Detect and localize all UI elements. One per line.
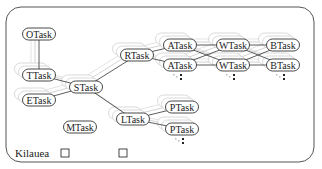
task-node-ptask1[interactable]: PTask	[166, 101, 199, 113]
task-node-mtask[interactable]: MTask	[64, 121, 97, 133]
task-node-label: PTask	[170, 124, 194, 135]
more-tasks-ellipsis-icon	[276, 74, 285, 80]
more-tasks-ellipsis-icon	[173, 74, 182, 80]
ghost-shadow-layer	[15, 28, 296, 132]
more-tasks-ellipsis-icon	[175, 138, 184, 144]
task-node-ttask[interactable]: TTask	[23, 69, 56, 81]
task-node-rtask[interactable]: RTask	[121, 49, 154, 61]
task-node-label: OTask	[26, 29, 52, 40]
task-node-btask1[interactable]: BTask	[267, 39, 300, 51]
task-node-label: WTask	[219, 60, 247, 71]
task-node-ltask[interactable]: LTask	[117, 113, 150, 125]
processor-slot-icon	[119, 149, 127, 157]
task-node-label: BTask	[270, 40, 295, 51]
task-node-label: PTask	[170, 102, 194, 113]
task-node-stask[interactable]: STask	[70, 81, 103, 93]
more-tasks-ellipsis-icon	[226, 74, 235, 80]
task-node-label: WTask	[219, 40, 247, 51]
task-node-btask2[interactable]: BTask	[267, 59, 300, 71]
task-node-label: LTask	[121, 114, 145, 125]
task-node-label: BTask	[270, 60, 295, 71]
task-node-label: RTask	[125, 50, 150, 61]
task-node-atask2[interactable]: ATask	[164, 59, 197, 71]
task-node-label: ATask	[168, 40, 193, 51]
machine-label: Kilauea	[15, 147, 49, 159]
legend: Kilauea	[15, 147, 127, 159]
task-node-label: TTask	[27, 70, 52, 81]
task-graph-diagram: OTaskTTaskETaskSTaskRTaskMTaskLTaskATask…	[0, 0, 322, 169]
processor-slot-icon	[61, 149, 69, 157]
task-node-label: ETask	[27, 95, 52, 106]
task-node-wtask1[interactable]: WTask	[217, 39, 250, 51]
task-node-atask1[interactable]: ATask	[164, 39, 197, 51]
task-node-ptask2[interactable]: PTask	[166, 123, 199, 135]
task-node-label: ATask	[168, 60, 193, 71]
task-node-wtask2[interactable]: WTask	[217, 59, 250, 71]
task-node-otask[interactable]: OTask	[23, 28, 56, 40]
task-node-label: STask	[74, 82, 98, 93]
task-node-etask[interactable]: ETask	[23, 94, 56, 106]
task-node-label: MTask	[66, 122, 94, 133]
